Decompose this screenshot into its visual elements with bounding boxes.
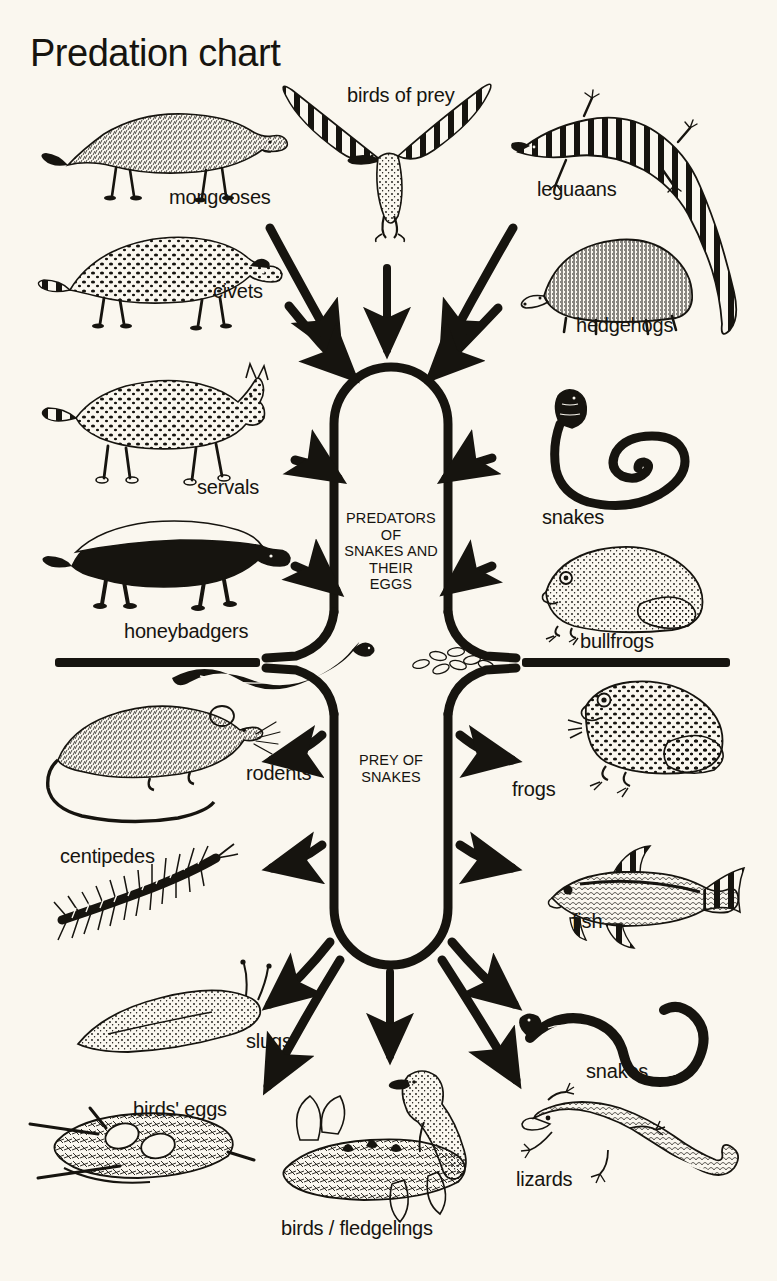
- arrow-frogs: [460, 735, 512, 760]
- label-leguaans: leguaans: [537, 178, 617, 201]
- arrow-centipedes: [272, 845, 322, 868]
- arrow-bullfrogs: [448, 566, 492, 590]
- divider-bar-right: [522, 658, 730, 667]
- label-civets: civets: [213, 280, 263, 303]
- divider-bar-left: [55, 658, 260, 667]
- label-snakes-prey: snakes: [586, 1060, 648, 1083]
- bird-of-prey-illustration: [283, 84, 491, 242]
- label-honeybadgers: honeybadgers: [124, 620, 248, 643]
- arrow-birds-eggs: [268, 960, 340, 1086]
- core-prey-label: PREY OF SNAKES: [331, 752, 451, 785]
- predation-chart-canvas: Predation chart: [0, 0, 777, 1281]
- label-birds-fledgelings: birds / fledgelings: [281, 1217, 433, 1240]
- label-servals: servals: [197, 476, 259, 499]
- core-predators-label: PREDATORS OF SNAKES AND THEIR EGGS: [331, 510, 451, 593]
- honeybadger-illustration: [42, 521, 290, 611]
- arrow-rodents: [272, 735, 322, 760]
- slug-illustration: [78, 959, 272, 1052]
- central-capsule-outline: [266, 367, 516, 965]
- label-snakes-predator: snakes: [542, 506, 604, 529]
- bird-on-nest-illustration: [283, 1071, 466, 1222]
- arrow-fish: [460, 845, 512, 868]
- cobra-illustration: [555, 390, 685, 506]
- label-mongooses: mongooses: [169, 186, 271, 209]
- label-birds-eggs: birds' eggs: [133, 1098, 227, 1121]
- label-slugs: slugs: [246, 1030, 292, 1053]
- frog-illustration: [568, 681, 723, 797]
- label-birds-of-prey: birds of prey: [347, 84, 454, 107]
- label-lizards: lizards: [516, 1168, 572, 1191]
- label-frogs: frogs: [512, 778, 555, 801]
- label-bullfrogs: bullfrogs: [580, 630, 654, 653]
- serval-illustration: [42, 364, 268, 485]
- arrow-mongooses: [270, 228, 338, 352]
- label-rodents: rodents: [246, 762, 311, 785]
- arrow-snakes-top: [446, 458, 492, 478]
- prey-arrows: [268, 735, 516, 1086]
- diagram-artwork-layer: [0, 0, 777, 1281]
- label-hedgehogs: hedgehogs: [576, 314, 673, 337]
- label-fish: fish: [572, 910, 602, 933]
- label-centipedes: centipedes: [60, 845, 155, 868]
